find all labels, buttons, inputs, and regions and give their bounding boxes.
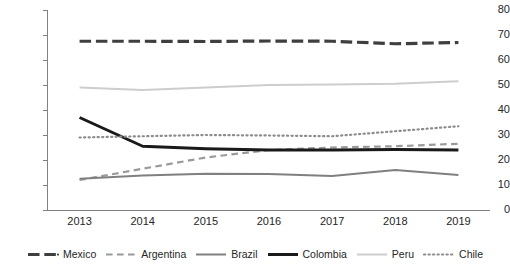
- legend-item-argentina[interactable]: Argentina: [105, 249, 186, 260]
- legend-label: Chile: [459, 249, 483, 260]
- series-plot: [0, 0, 510, 270]
- legend-swatch-colombia-icon: [267, 249, 299, 260]
- series-line-brazil: [80, 170, 459, 179]
- legend-label: Brazil: [231, 249, 257, 260]
- legend-item-mexico[interactable]: Mexico: [27, 249, 96, 260]
- legend-swatch-peru-icon: [356, 249, 388, 260]
- legend-label: Argentina: [141, 249, 186, 260]
- legend-swatch-mexico-icon: [27, 249, 59, 260]
- chart-legend: MexicoArgentinaBrazilColombiaPeruChile: [0, 243, 510, 265]
- legend-swatch-brazil-icon: [195, 249, 227, 260]
- legend-item-colombia[interactable]: Colombia: [267, 249, 347, 260]
- legend-item-brazil[interactable]: Brazil: [195, 249, 257, 260]
- legend-label: Peru: [392, 249, 414, 260]
- legend-item-chile[interactable]: Chile: [423, 249, 483, 260]
- legend-label: Mexico: [63, 249, 96, 260]
- series-line-mexico: [80, 41, 459, 44]
- series-line-peru: [80, 81, 459, 90]
- legend-swatch-argentina-icon: [105, 249, 137, 260]
- series-line-chile: [80, 126, 459, 137]
- legend-item-peru[interactable]: Peru: [356, 249, 414, 260]
- legend-swatch-chile-icon: [423, 249, 455, 260]
- legend-label: Colombia: [303, 249, 347, 260]
- line-chart: 80706050403020100 2013201420152016201720…: [0, 0, 510, 270]
